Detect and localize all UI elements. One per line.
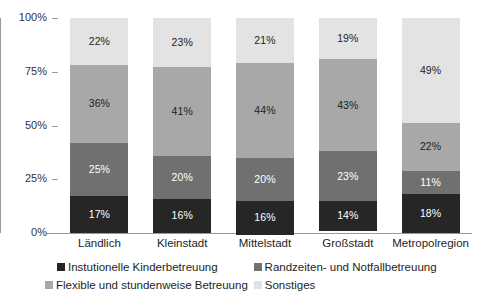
bar-segment[interactable]: 17% bbox=[70, 196, 128, 233]
bar-segment[interactable]: 36% bbox=[70, 65, 128, 142]
bar-segment[interactable]: 20% bbox=[153, 156, 211, 199]
x-axis-labels: LändlichKleinstadtMittelstadtGroßstadtMe… bbox=[58, 236, 472, 254]
bar-segment-value-label: 20% bbox=[254, 174, 275, 185]
x-axis-category-label: Ländlich bbox=[52, 236, 146, 250]
legend-label: Instutionelle Kinderbetreuung bbox=[68, 261, 218, 274]
bar-segment-value-label: 20% bbox=[172, 172, 193, 183]
legend-row-2: Flexible und stundenweise BetreuungSonst… bbox=[0, 276, 483, 294]
bar-segment[interactable]: 23% bbox=[319, 151, 377, 200]
bar-segment[interactable]: 16% bbox=[153, 199, 211, 233]
legend-swatch-icon bbox=[254, 263, 262, 271]
legend-label: Sonstiges bbox=[265, 279, 316, 292]
bar-segment-value-label: 22% bbox=[89, 36, 110, 47]
bar-segment[interactable]: 19% bbox=[319, 18, 377, 59]
bar-segment-value-label: 23% bbox=[172, 37, 193, 48]
bar-stack[interactable]: 49%22%11%18% bbox=[402, 18, 460, 233]
y-tick-label: 50% bbox=[1, 120, 47, 131]
bar-stack[interactable]: 19%43%23%14% bbox=[319, 18, 377, 233]
bar-segment-value-label: 18% bbox=[420, 208, 441, 219]
bar-segment[interactable]: 14% bbox=[319, 201, 377, 231]
bar-segment[interactable]: 22% bbox=[402, 123, 460, 170]
y-tick-label: 100% bbox=[1, 12, 47, 23]
legend-label: Flexible und stundenweise Betreuung bbox=[56, 279, 248, 292]
legend-item[interactable]: Randzeiten- und Notfallbetreuung bbox=[254, 261, 437, 274]
bar-segment[interactable]: 41% bbox=[153, 67, 211, 155]
stacked-bar-chart: 100%75%50%25%0% 22%36%25%17%23%41%20%16%… bbox=[0, 0, 483, 304]
legend-item[interactable]: Instutionelle Kinderbetreuung bbox=[57, 261, 218, 274]
y-tick-label: 25% bbox=[1, 173, 47, 184]
bar-segment-value-label: 36% bbox=[89, 98, 110, 109]
bar-segment-value-label: 17% bbox=[89, 209, 110, 220]
bar-segment-value-label: 22% bbox=[420, 141, 441, 152]
legend-row-1: Instutionelle KinderbetreuungRandzeiten-… bbox=[0, 258, 483, 276]
x-axis-category-label: Metropolregion bbox=[384, 236, 478, 250]
y-tick-label: 75% bbox=[1, 66, 47, 77]
bar-segment[interactable]: 23% bbox=[153, 18, 211, 67]
y-tick-label: 0% bbox=[1, 227, 47, 238]
bar-segment[interactable]: 49% bbox=[402, 18, 460, 123]
y-tick-mark bbox=[52, 233, 58, 234]
bar-segment[interactable]: 11% bbox=[402, 171, 460, 195]
bar-segment[interactable]: 22% bbox=[70, 18, 128, 65]
bar-stack[interactable]: 23%41%20%16% bbox=[153, 18, 211, 233]
bar-segment[interactable]: 25% bbox=[70, 143, 128, 197]
bar-segment[interactable]: 16% bbox=[236, 201, 294, 235]
legend-item[interactable]: Sonstiges bbox=[254, 279, 316, 292]
x-axis-category-label: Großstadt bbox=[301, 236, 395, 250]
bar-segment-value-label: 16% bbox=[254, 212, 275, 223]
legend-swatch-icon bbox=[57, 263, 65, 271]
bar-segment[interactable]: 20% bbox=[236, 158, 294, 201]
bar-segment-value-label: 43% bbox=[337, 100, 358, 111]
bar-segment[interactable]: 44% bbox=[236, 63, 294, 158]
bar-segment[interactable]: 21% bbox=[236, 18, 294, 63]
bar-segment-value-label: 11% bbox=[420, 177, 441, 188]
x-axis-category-label: Kleinstadt bbox=[135, 236, 229, 250]
bar-segment-value-label: 41% bbox=[172, 106, 193, 117]
chart-legend: Instutionelle KinderbetreuungRandzeiten-… bbox=[0, 258, 483, 302]
legend-item[interactable]: Flexible und stundenweise Betreuung bbox=[45, 279, 248, 292]
bar-stack[interactable]: 21%44%20%16% bbox=[236, 18, 294, 233]
x-axis-category-label: Mittelstadt bbox=[218, 236, 312, 250]
bar-segment-value-label: 49% bbox=[420, 65, 441, 76]
legend-swatch-icon bbox=[254, 281, 262, 289]
bar-stack[interactable]: 22%36%25%17% bbox=[70, 18, 128, 233]
bar-segment-value-label: 23% bbox=[337, 171, 358, 182]
bar-segment[interactable]: 43% bbox=[319, 59, 377, 151]
bars-layer: 22%36%25%17%23%41%20%16%21%44%20%16%19%4… bbox=[58, 18, 472, 233]
bar-segment-value-label: 14% bbox=[337, 210, 358, 221]
bar-segment-value-label: 44% bbox=[254, 105, 275, 116]
legend-label: Randzeiten- und Notfallbetreuung bbox=[265, 261, 437, 274]
bar-segment-value-label: 19% bbox=[337, 33, 358, 44]
bar-segment-value-label: 21% bbox=[254, 35, 275, 46]
legend-swatch-icon bbox=[45, 281, 53, 289]
bar-segment-value-label: 16% bbox=[172, 210, 193, 221]
bar-segment[interactable]: 18% bbox=[402, 194, 460, 233]
bar-segment-value-label: 25% bbox=[89, 164, 110, 175]
